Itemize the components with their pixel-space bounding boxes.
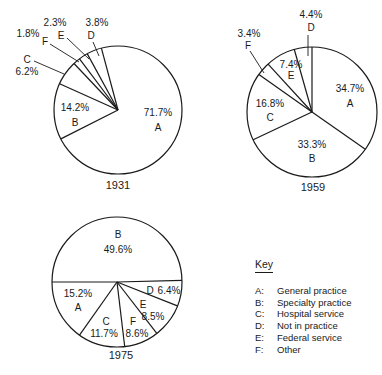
- legend-key: Key A:General practice B:Specialty pract…: [255, 259, 351, 356]
- slice-c-code: C: [266, 112, 273, 123]
- legend-label: Other: [277, 344, 301, 356]
- slice-b-value: 49.6%: [104, 244, 132, 255]
- slice-d-code: D: [146, 285, 153, 296]
- slice-c-code: C: [102, 316, 109, 327]
- legend-item: B:Specialty practice: [255, 297, 351, 309]
- slice-a-code: A: [155, 122, 162, 133]
- slice-b-code: B: [115, 229, 122, 240]
- legend-code: F:: [255, 344, 277, 356]
- slice-e-value: 8.5%: [142, 311, 165, 322]
- legend-item: C:Hospital service: [255, 308, 351, 320]
- slice-c-value: 16.8%: [256, 98, 284, 109]
- slice-e-code: E: [288, 70, 295, 81]
- slice-a-value: 71.7%: [144, 107, 172, 118]
- legend-label: Specialty practice: [277, 297, 351, 309]
- slice-d-value: 3.8%: [86, 17, 109, 28]
- legend-item: A:General practice: [255, 285, 351, 297]
- legend-label: Hospital service: [277, 308, 344, 320]
- legend-code: E:: [255, 332, 277, 344]
- slice-b-code: B: [309, 153, 316, 164]
- slice-e-code: E: [140, 299, 147, 310]
- legend-item: D:Not in practice: [255, 320, 351, 332]
- slice-f-value: 8.6%: [126, 328, 149, 339]
- legend-item: E:Federal service: [255, 332, 351, 344]
- slice-d-value: 4.4%: [300, 9, 323, 20]
- slice-d-value: 6.4%: [158, 285, 181, 296]
- pie-1931-title: 1931: [106, 179, 130, 191]
- legend-code: A:: [255, 285, 277, 297]
- slice-a-code: A: [75, 302, 82, 313]
- legend-code: D:: [255, 320, 277, 332]
- slice-c-code: C: [23, 54, 30, 65]
- slice-e-code: E: [58, 30, 65, 41]
- slice-a-value: 15.2%: [64, 288, 92, 299]
- slice-f-value: 3.4%: [238, 28, 261, 39]
- slice-a-value: 34.7%: [336, 83, 364, 94]
- slice-b-code: B: [72, 117, 79, 128]
- slice-f-code: F: [42, 36, 48, 47]
- slice-f-code: F: [130, 316, 136, 327]
- slice-f-value: 1.8%: [17, 28, 40, 39]
- slice-b-value: 14.2%: [61, 102, 89, 113]
- legend-item: F:Other: [255, 344, 351, 356]
- legend-label: Not in practice: [277, 320, 338, 332]
- slice-e-value: 2.3%: [44, 17, 67, 28]
- slice-d-code: D: [87, 30, 94, 41]
- legend-label: General practice: [277, 285, 347, 297]
- slice-c-value: 6.2%: [16, 66, 39, 77]
- slice-d-code: D: [307, 22, 314, 33]
- slice-c-value: 11.7%: [90, 328, 118, 339]
- pie-1975-title: 1975: [109, 349, 133, 361]
- slice-e-value: 7.4%: [280, 59, 303, 70]
- legend-title: Key: [255, 259, 273, 273]
- slice-a-code: A: [347, 98, 354, 109]
- legend-label: Federal service: [277, 332, 342, 344]
- legend-code: C:: [255, 308, 277, 320]
- legend-code: B:: [255, 297, 277, 309]
- slice-f-code: F: [245, 40, 251, 51]
- slice-b-value: 33.3%: [298, 139, 326, 150]
- pie-1959-title: 1959: [301, 181, 325, 193]
